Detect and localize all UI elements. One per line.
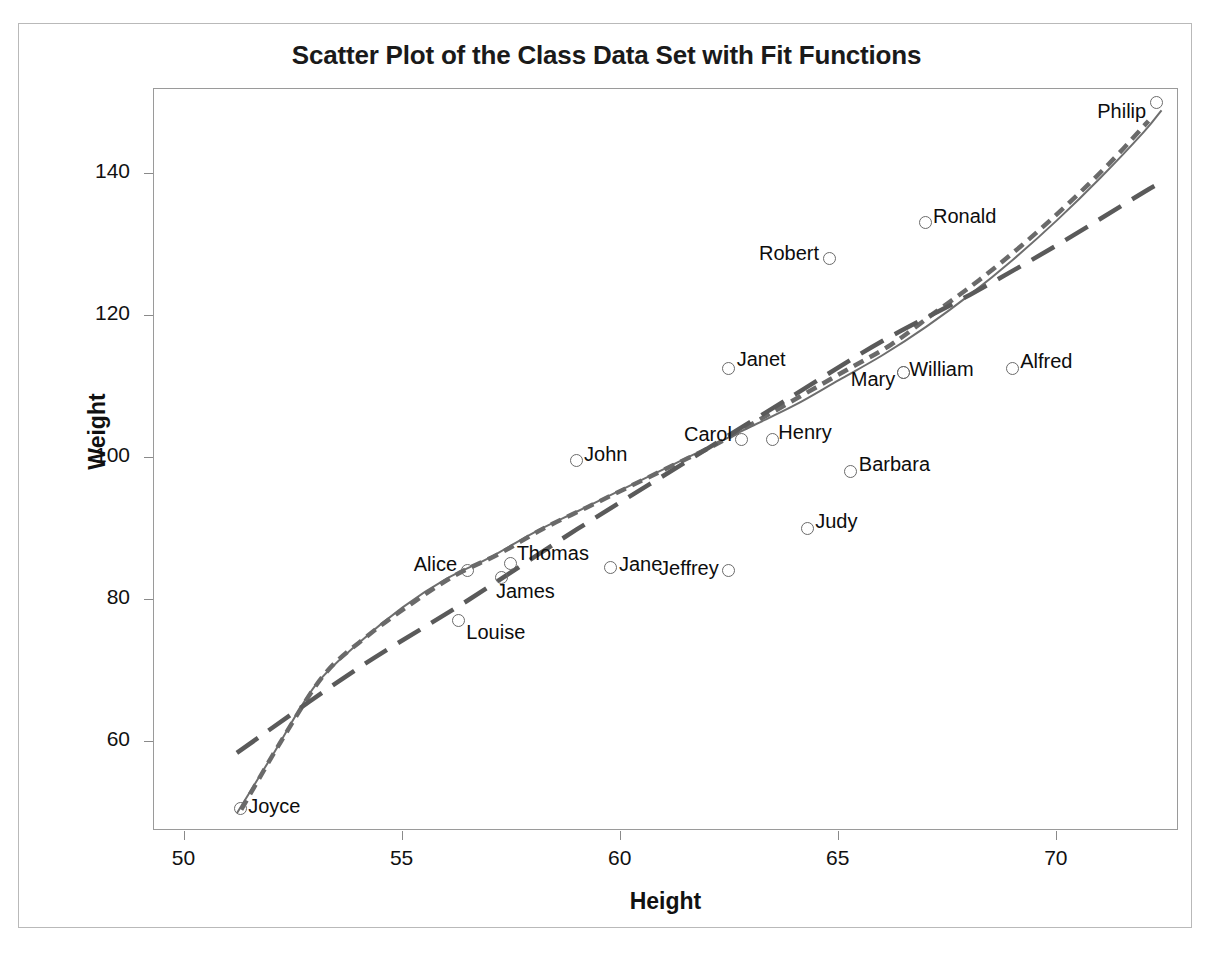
y-tick-label: 100 [50, 443, 130, 467]
x-axis-title: Height [153, 888, 1178, 915]
data-point-label: Robert [759, 242, 819, 265]
y-tick-label: 60 [50, 727, 130, 751]
data-point-label: William [909, 358, 973, 381]
data-point-label: Ronald [933, 205, 996, 228]
x-tick-label: 55 [372, 846, 432, 870]
data-point-label: Louise [466, 621, 525, 644]
chart-page: Scatter Plot of the Class Data Set with … [0, 0, 1213, 959]
fit-curves-layer [154, 89, 1179, 831]
y-axis-title: Weight [84, 332, 111, 532]
data-point-label: Judy [815, 510, 857, 533]
data-point-marker[interactable] [823, 252, 836, 265]
data-point-label: Mary [851, 368, 895, 391]
y-tick-label: 80 [50, 585, 130, 609]
data-point-label: Joyce [248, 795, 300, 818]
data-point-marker[interactable] [570, 454, 583, 467]
x-tick-label: 65 [808, 846, 868, 870]
y-tick-mark [144, 457, 153, 458]
data-point-label: Jane [619, 553, 662, 576]
y-tick-mark [144, 599, 153, 600]
data-point-marker[interactable] [452, 614, 465, 627]
y-tick-mark [144, 315, 153, 316]
data-point-marker[interactable] [919, 216, 932, 229]
data-point-marker[interactable] [897, 366, 910, 379]
x-tick-mark [620, 831, 621, 840]
data-point-label: Janet [737, 348, 786, 371]
x-tick-mark [402, 831, 403, 840]
fit-curve-regression-fit [237, 183, 1162, 753]
x-tick-label: 50 [154, 846, 214, 870]
data-point-marker[interactable] [1150, 96, 1163, 109]
data-point-marker[interactable] [1006, 362, 1019, 375]
data-point-label: Alice [414, 553, 457, 576]
page-title: Scatter Plot of the Class Data Set with … [0, 40, 1213, 71]
x-tick-mark [838, 831, 839, 840]
data-point-label: Jeffrey [659, 557, 719, 580]
y-tick-label: 140 [50, 159, 130, 183]
y-tick-mark [144, 173, 153, 174]
y-tick-mark [144, 741, 153, 742]
fit-curve-loess-fit [237, 110, 1162, 813]
y-tick-label: 120 [50, 301, 130, 325]
data-point-label: John [584, 443, 627, 466]
x-tick-mark [184, 831, 185, 840]
data-point-marker[interactable] [766, 433, 779, 446]
data-point-marker[interactable] [801, 522, 814, 535]
data-point-label: Henry [778, 421, 831, 444]
data-point-marker[interactable] [234, 802, 247, 815]
x-tick-mark [1056, 831, 1057, 840]
data-point-label: Barbara [859, 453, 930, 476]
x-tick-label: 60 [590, 846, 650, 870]
fit-curve-spline-fit [241, 121, 1148, 810]
x-tick-label: 70 [1026, 846, 1086, 870]
data-point-label: Thomas [517, 542, 589, 565]
data-point-label: Carol [684, 423, 732, 446]
data-point-marker[interactable] [461, 564, 474, 577]
data-point-label: Alfred [1020, 350, 1072, 373]
data-point-label: Philip [1097, 100, 1146, 123]
data-point-label: James [496, 580, 555, 603]
plot-area [153, 88, 1178, 830]
